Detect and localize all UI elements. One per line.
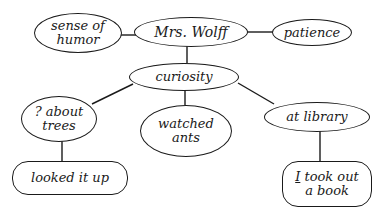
node-label: took out [300,169,358,184]
node-patience: patience [272,19,352,46]
node-about-trees: ? about trees [21,96,97,142]
node-label: at library [286,110,347,124]
node-label: a book [305,184,349,198]
node-looked-it-up: looked it up [12,161,128,195]
node-label: curiosity [155,70,212,84]
node-label: looked it up [31,171,109,185]
node-curiosity: curiosity [129,63,239,91]
node-watched-ants: watched ants [140,105,232,157]
node-took-out-a-book: I took out a book [282,161,372,207]
node-label: watched [158,117,214,131]
edge-curiosity-library [238,83,274,104]
node-label: Mrs. Wolff [154,25,227,39]
edge-curiosity-trees [92,84,133,104]
node-sense-of-humor: sense of humor [34,13,122,53]
node-label: sense of [51,19,105,33]
node-label: patience [284,26,341,40]
concept-map: sense of humor Mrs. Wolff patience curio… [0,0,385,219]
node-mrs-wolff: Mrs. Wolff [134,17,248,47]
node-label-line1: I took out [295,170,359,184]
node-label: ants [172,131,200,145]
node-label: ? about [35,105,84,119]
node-label: trees [42,119,76,133]
node-at-library: at library [264,102,370,132]
node-label: humor [56,33,99,47]
